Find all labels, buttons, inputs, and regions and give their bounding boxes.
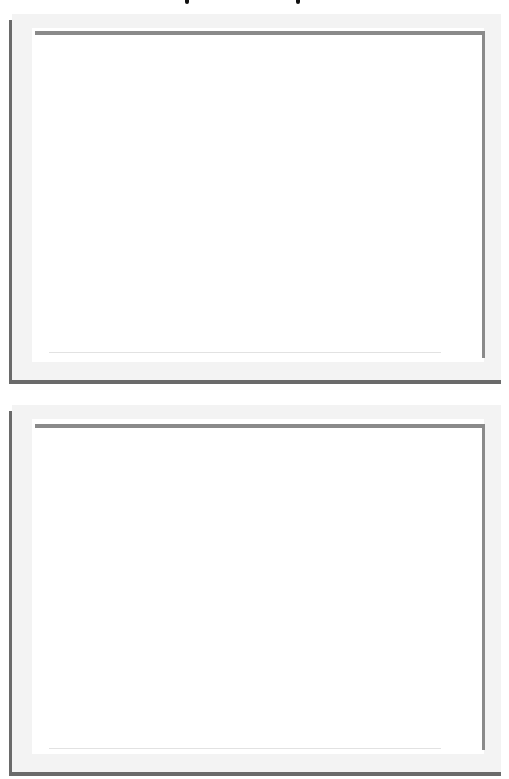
top-mark-right	[296, 0, 300, 4]
frame-1-faint-line	[49, 352, 441, 353]
frame-1-inner-right-border	[482, 31, 485, 358]
frame-1-content-area	[32, 28, 484, 362]
frame-1	[9, 14, 501, 384]
frame-2-inner-top-border	[35, 424, 485, 428]
top-mark-left	[185, 0, 189, 4]
frame-1-bottom-border	[9, 380, 501, 384]
frame-2-content-area	[32, 419, 484, 754]
frame-2-left-border	[9, 411, 12, 776]
frame-2	[9, 405, 501, 776]
frame-1-inner-top-border	[35, 31, 485, 35]
frame-2-faint-line	[49, 748, 441, 749]
frame-1-left-border	[9, 20, 12, 384]
frame-2-inner-right-border	[482, 424, 485, 750]
frame-2-bottom-border	[9, 772, 501, 776]
